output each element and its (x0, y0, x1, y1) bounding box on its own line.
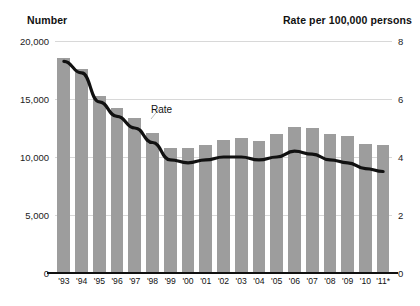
x-axis-tick-label: '06 (286, 276, 304, 286)
x-axis-tick-label: '11* (374, 276, 392, 286)
rate-line-series (55, 41, 392, 273)
x-axis-tick-label: '10 (356, 276, 374, 286)
chart-container: Number Rate per 100,000 persons 05,00010… (0, 0, 420, 306)
x-axis-tick-label: '07 (303, 276, 321, 286)
x-axis-tick-label: '94 (73, 276, 91, 286)
x-axis-tick-label: '01 (197, 276, 215, 286)
right-axis-tick-label: 0 (398, 273, 403, 284)
right-axis-tick-label: 8 (398, 41, 403, 52)
x-axis-baseline (47, 272, 398, 274)
right-axis-tick-label: 6 (398, 99, 403, 110)
left-axis-tick-label: 5,000 (25, 215, 49, 226)
x-axis-tick-label: '97 (126, 276, 144, 286)
left-axis-tick-label: 20,000 (20, 41, 49, 52)
right-axis-tick-label: 2 (398, 215, 403, 226)
left-axis-tick-label: 0 (44, 273, 49, 284)
x-axis-tick-label: '02 (215, 276, 233, 286)
x-axis-tick-label: '95 (90, 276, 108, 286)
rate-line-path (64, 61, 383, 171)
right-axis-title: Rate per 100,000 persons (283, 14, 412, 26)
x-axis-tick-label: '96 (108, 276, 126, 286)
left-axis-tick-label: 15,000 (20, 99, 49, 110)
left-axis-title: Number (27, 14, 67, 26)
x-axis-tick-label: '09 (339, 276, 357, 286)
x-axis-tick-label: '93 (55, 276, 73, 286)
x-axis-tick-label: '99 (161, 276, 179, 286)
x-axis-tick-label: '08 (321, 276, 339, 286)
left-axis-tick-label: 10,000 (20, 157, 49, 168)
x-axis-tick-label: '03 (232, 276, 250, 286)
x-axis-tick-label: '05 (268, 276, 286, 286)
x-axis-labels: '93'94'95'96'97'98'99'00'01'02'03'04'05'… (55, 276, 392, 286)
x-axis-tick-label: '04 (250, 276, 268, 286)
x-axis-tick-label: '00 (179, 276, 197, 286)
rate-annotation-label: Rate (151, 104, 172, 115)
right-axis-tick-label: 4 (398, 157, 403, 168)
x-axis-tick-label: '98 (144, 276, 162, 286)
plot-area: 05,00010,00015,00020,000 02468 (55, 41, 392, 273)
